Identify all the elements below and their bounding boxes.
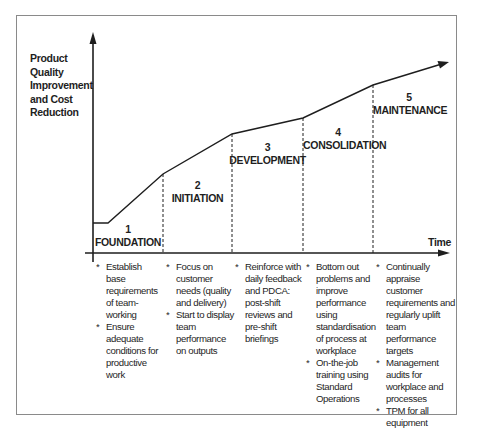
- stage-number: 3: [229, 141, 306, 154]
- action-item: TPM for all equipment: [376, 405, 456, 429]
- stage-3-actions: Reinforce with daily feedback and PDCA: …: [235, 261, 304, 345]
- stage-5-actions: Continually appraise customer requiremen…: [376, 261, 456, 429]
- curve-arrow-icon: [438, 61, 450, 69]
- y-axis-arrow-icon: [90, 32, 97, 44]
- stage-5-title: 5 MAINTENANCE: [373, 91, 445, 117]
- stage-name: CONSOLIDATION: [303, 139, 373, 152]
- stage-2-title: 2 INITIATION: [163, 179, 232, 205]
- action-item: Focus on customer needs (quality and del…: [166, 261, 234, 309]
- stage-name: DEVELOPMENT: [229, 154, 306, 167]
- action-item: Bottom out problems and improve performa…: [306, 261, 374, 357]
- y-axis-label-line: Quality: [30, 66, 93, 80]
- stage-name: INITIATION: [163, 192, 232, 205]
- stage-number: 2: [163, 179, 232, 192]
- stage-number: 1: [93, 223, 163, 236]
- stage-number: 5: [373, 91, 445, 104]
- y-axis-label-line: Product: [30, 52, 93, 66]
- action-item: Reinforce with daily feedback and PDCA: …: [235, 261, 304, 345]
- action-item: Establish base requirements of team-work…: [96, 261, 162, 321]
- stage-4-actions: Bottom out problems and improve performa…: [306, 261, 374, 405]
- stage-name: MAINTENANCE: [373, 104, 445, 117]
- action-item: Ensure adequate conditions for productiv…: [96, 321, 162, 381]
- stage-4-title: 4 CONSOLIDATION: [303, 126, 373, 152]
- y-axis-label: Product Quality Improvement and Cost Red…: [30, 52, 93, 120]
- y-axis-label-line: Improvement: [30, 79, 93, 93]
- y-axis-label-line: and Cost: [30, 93, 93, 107]
- stage-2-actions: Focus on customer needs (quality and del…: [166, 261, 234, 357]
- stage-name: FOUNDATION: [93, 236, 163, 249]
- action-item: On-the-job training using Standard Opera…: [306, 357, 374, 405]
- stage-1-actions: Establish base requirements of team-work…: [96, 261, 162, 381]
- stage-number: 4: [303, 126, 373, 139]
- x-axis-label: Time: [428, 236, 451, 248]
- action-item: Start to display team performance on out…: [166, 309, 234, 357]
- stage-1-title: 1 FOUNDATION: [93, 223, 163, 249]
- y-axis-label-line: Reduction: [30, 106, 93, 120]
- stage-3-title: 3 DEVELOPMENT: [229, 141, 306, 167]
- x-axis-arrow-icon: [438, 250, 450, 257]
- action-item: Management audits for workplace and proc…: [376, 357, 456, 405]
- action-item: Continually appraise customer requiremen…: [376, 261, 456, 357]
